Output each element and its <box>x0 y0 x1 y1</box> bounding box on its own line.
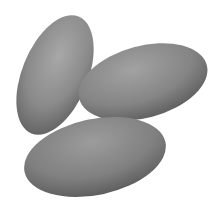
potatoes-illustration <box>0 0 224 207</box>
potato-photo <box>0 0 224 207</box>
